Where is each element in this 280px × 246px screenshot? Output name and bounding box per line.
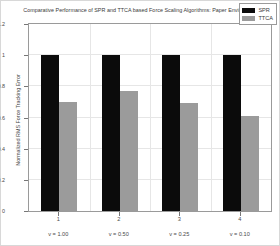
bar-ttca-group-4: [241, 116, 259, 211]
legend-item-ttca: TTCA: [242, 14, 273, 22]
x-tick-label-3: 3: [164, 216, 194, 222]
bar-spr-group-2: [102, 55, 120, 211]
y-tick-label: 0: [0, 208, 5, 214]
plot-area: [28, 23, 272, 212]
y-tick-mark: [24, 180, 28, 181]
x-tick-label-2: 2: [104, 216, 134, 222]
y-tick-label: 0.4: [0, 146, 5, 152]
x-tick-label-1: 1: [43, 216, 73, 222]
x-group-label-3: v = 0.25: [154, 231, 204, 237]
y-tick-mark: [24, 149, 28, 150]
gridline-vertical: [211, 24, 212, 211]
y-tick-mark: [24, 86, 28, 87]
bar-ttca-group-3: [180, 103, 198, 211]
y-tick-label: 0.6: [0, 115, 5, 121]
y-axis-label: Normalized RMS Force Tracking Error: [15, 45, 21, 195]
bar-spr-group-1: [41, 55, 59, 211]
bar-spr-group-3: [162, 55, 180, 211]
x-tick-label-4: 4: [225, 216, 255, 222]
gridline-vertical: [150, 24, 151, 211]
bar-ttca-group-2: [120, 91, 138, 211]
x-group-label-1: v = 1.00: [33, 231, 83, 237]
chart-figure: Comparative Performance of SPR and TTCA …: [0, 0, 280, 246]
y-tick-mark: [24, 211, 28, 212]
y-tick-label: 1.2: [0, 21, 5, 27]
bar-ttca-group-1: [59, 102, 77, 211]
bar-spr-group-4: [223, 55, 241, 211]
y-tick-mark: [24, 118, 28, 119]
y-tick-label: 0.8: [0, 83, 5, 89]
gridline-vertical: [90, 24, 91, 211]
y-tick-label: 0.2: [0, 177, 5, 183]
legend-label-ttca: TTCA: [258, 14, 273, 22]
y-tick-mark: [24, 55, 28, 56]
x-group-label-2: v = 0.50: [94, 231, 144, 237]
legend-label-spr: SPR: [258, 6, 270, 14]
y-tick-mark: [24, 24, 28, 25]
legend-swatch-spr: [242, 8, 255, 13]
legend-item-spr: SPR: [242, 6, 273, 14]
y-tick-label: 1: [0, 52, 5, 58]
chart-title: Comparative Performance of SPR and TTCA …: [1, 7, 280, 13]
chart-legend: SPRTTCA: [239, 3, 277, 25]
legend-swatch-ttca: [242, 16, 255, 21]
x-group-label-4: v = 0.10: [215, 231, 265, 237]
